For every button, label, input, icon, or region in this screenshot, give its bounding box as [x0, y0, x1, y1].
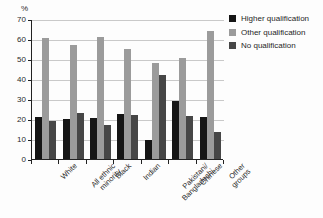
y-axis-tick-label: 40: [17, 76, 26, 84]
y-axis-tick-label: 10: [17, 136, 26, 144]
x-axis-label: Black: [114, 162, 133, 181]
legend-label: Other qualification: [241, 28, 305, 37]
legend-label: No qualification: [241, 41, 296, 50]
bar: [42, 38, 49, 159]
bar: [49, 121, 56, 159]
bar: [172, 101, 179, 159]
bar: [117, 114, 124, 159]
y-axis-tick-label: 50: [17, 56, 26, 64]
y-axis-tick: [28, 120, 32, 121]
legend-item[interactable]: No qualification: [229, 41, 309, 50]
bar: [145, 140, 152, 159]
x-axis-tick: [223, 160, 224, 164]
bar-group: [32, 19, 59, 159]
bar: [152, 63, 159, 159]
bar-group: [169, 19, 196, 159]
legend-item[interactable]: Higher qualification: [229, 14, 309, 23]
legend-label: Higher qualification: [241, 14, 309, 23]
y-axis-tick: [28, 60, 32, 61]
y-axis-tick: [28, 80, 32, 81]
y-axis-tick: [28, 140, 32, 141]
bar: [70, 45, 77, 159]
bar: [35, 117, 42, 159]
bar-group: [87, 19, 114, 159]
bar: [63, 119, 70, 159]
legend-swatch-icon: [229, 15, 236, 22]
y-axis-tick: [28, 20, 32, 21]
x-axis-label: Other groups: [225, 162, 253, 190]
bar-group: [197, 19, 224, 159]
bar: [214, 132, 221, 159]
bar-group: [59, 19, 86, 159]
legend-item[interactable]: Other qualification: [229, 28, 309, 37]
y-axis-tick-label: 30: [17, 96, 26, 104]
bar: [124, 49, 131, 159]
x-axis-label: Indian: [142, 162, 162, 182]
y-axis-unit-label: %: [21, 4, 28, 13]
plot-area: 010203040506070: [31, 20, 223, 160]
bar: [90, 118, 97, 159]
bar: [97, 37, 104, 159]
bar: [77, 113, 84, 159]
bar: [131, 115, 138, 159]
bar-chart: % 010203040506070 WhiteAll ethnic minori…: [0, 0, 323, 218]
bar-group: [142, 19, 169, 159]
bar: [159, 75, 166, 159]
x-axis-labels: WhiteAll ethnic minorityBlackIndianPakis…: [31, 162, 223, 218]
bar: [207, 31, 214, 159]
bar-groups: [32, 19, 224, 159]
y-axis-tick-label: 20: [17, 116, 26, 124]
bar: [179, 58, 186, 159]
y-axis-tick-label: 0: [22, 156, 26, 164]
legend: Higher qualificationOther qualificationN…: [229, 14, 309, 50]
x-axis-label: White: [59, 162, 78, 181]
y-axis-tick-label: 60: [17, 36, 26, 44]
y-axis-tick: [28, 100, 32, 101]
legend-swatch-icon: [229, 42, 236, 49]
bar: [200, 117, 207, 159]
y-axis-tick-label: 70: [17, 16, 26, 24]
bar-group: [114, 19, 141, 159]
legend-swatch-icon: [229, 29, 236, 36]
bar: [186, 116, 193, 159]
y-axis-tick: [28, 40, 32, 41]
bar: [104, 125, 111, 159]
